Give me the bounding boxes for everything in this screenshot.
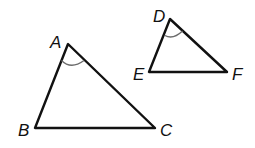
vertex-label-b: B <box>18 121 29 140</box>
angle-d-arc-mark <box>165 31 183 37</box>
vertex-label-a: A <box>49 33 61 52</box>
vertex-label-d: D <box>153 7 165 26</box>
angle-a-arc-mark <box>62 61 85 66</box>
triangle-def-outline <box>149 19 227 72</box>
similar-triangles-diagram: A B C D E F <box>0 0 255 148</box>
vertex-label-f: F <box>232 65 244 84</box>
triangle-def: D E F <box>133 7 244 84</box>
vertex-label-c: C <box>160 121 173 140</box>
vertex-label-e: E <box>133 65 145 84</box>
triangle-abc: A B C <box>18 33 173 140</box>
triangle-abc-outline <box>35 44 155 128</box>
